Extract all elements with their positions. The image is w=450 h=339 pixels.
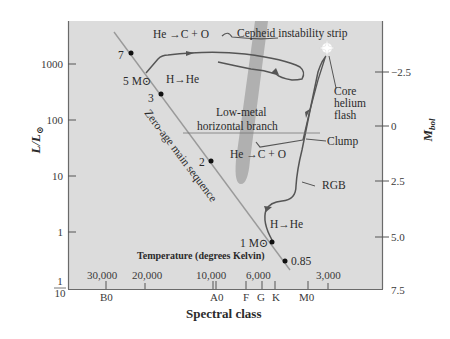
right-tick-neg2-5: −2.5	[391, 66, 411, 78]
star-3-label: 3	[148, 92, 154, 104]
label-h-burn-low: H→He	[270, 218, 303, 230]
label-helium: helium	[334, 97, 366, 109]
star-5-label: 5 M⊙	[123, 75, 152, 87]
left-tick-100: 100	[47, 114, 64, 126]
plot-area	[68, 21, 383, 289]
temp-20000: 20,000	[132, 269, 163, 281]
temperature-axis-title: Temperature (degrees Kelvin)	[137, 250, 265, 262]
label-cepheid-strip: Cepheid instability strip	[237, 27, 348, 40]
hr-diagram: 1000 100 10 1 1 10 L/L⊙ −2.5 0 2.5 5.0 7…	[0, 0, 450, 339]
label-low-metal-1: Low-metal	[216, 106, 266, 118]
star-2-msun	[209, 159, 214, 164]
star-1-msun	[270, 240, 275, 245]
left-tick-one-tenth: 1 10	[54, 275, 66, 299]
label-rgb: RGB	[322, 179, 346, 191]
left-axis-title: L/L⊙	[28, 126, 45, 154]
label-core: Core	[334, 85, 356, 97]
spectral-g: G	[257, 291, 265, 303]
spectral-b0: B0	[100, 291, 113, 303]
label-clump: Clump	[327, 135, 359, 148]
right-tick-7-5: 7.5	[391, 284, 405, 296]
spectral-k: K	[272, 291, 280, 303]
right-tick-2-5: 2.5	[391, 175, 405, 187]
svg-text:10: 10	[55, 287, 67, 299]
label-he-burn-top: He →C + O	[153, 28, 209, 40]
temp-10000: 10,000	[196, 269, 227, 281]
star-0-85-msun	[283, 259, 288, 264]
spectral-m0: M0	[299, 291, 315, 303]
star-7-msun	[129, 51, 134, 56]
svg-text:1: 1	[57, 275, 63, 287]
star-7-label: 7	[118, 49, 124, 61]
left-tick-10: 10	[52, 170, 64, 182]
label-flash: flash	[334, 109, 357, 121]
left-tick-1000: 1000	[41, 58, 64, 70]
temp-3000: 3,000	[316, 269, 341, 281]
right-axis-title: Mbol	[420, 118, 437, 143]
star-2-label: 2	[199, 156, 205, 168]
spectral-f: F	[243, 291, 249, 303]
star-1-label: 1 M⊙	[240, 237, 269, 249]
label-h-burn-top: H→He	[166, 73, 199, 85]
left-tick-1: 1	[58, 226, 64, 238]
svg-text:L/L⊙: L/L⊙	[28, 126, 45, 154]
temp-6000: 6,000	[246, 269, 271, 281]
spectral-a0: A0	[210, 291, 224, 303]
right-tick-5-0: 5.0	[391, 231, 405, 243]
right-tick-0: 0	[391, 120, 397, 132]
label-he-burn-mid: He →C + O	[230, 148, 286, 160]
svg-text:Mbol: Mbol	[420, 118, 437, 143]
temp-30000: 30,000	[87, 269, 118, 281]
label-low-metal-2: horizontal branch	[197, 120, 278, 132]
star-3-msun	[159, 92, 164, 97]
star-0-85-label: 0.85	[291, 255, 311, 267]
spectral-axis-title: Spectral class	[186, 306, 261, 321]
